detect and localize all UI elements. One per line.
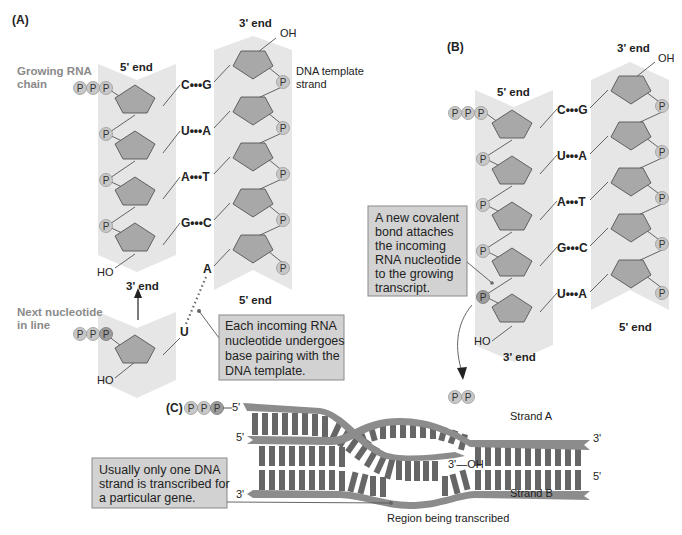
svg-text:P: P xyxy=(103,329,110,340)
base-pair: U•••A xyxy=(181,124,211,138)
callout-c-line: strand is transcribed for xyxy=(99,477,230,491)
dna-5-end-label: 5' end xyxy=(239,294,272,306)
svg-text:P: P xyxy=(103,83,110,94)
region-label: Region being transcribed xyxy=(387,512,509,524)
svg-text:P: P xyxy=(280,169,287,180)
base-pair: G•••C xyxy=(181,216,212,230)
release-arrowhead-icon xyxy=(457,367,467,380)
strand-a-3-label: 3' xyxy=(593,432,601,444)
svg-text:P: P xyxy=(452,392,459,403)
incoming-base: U xyxy=(180,325,189,339)
dna-phosphate: P xyxy=(656,100,669,113)
svg-text:P: P xyxy=(214,403,221,414)
svg-text:P: P xyxy=(480,292,487,303)
incoming-triphosphate: P P P xyxy=(74,328,113,341)
svg-text:P: P xyxy=(280,77,287,88)
svg-text:P: P xyxy=(480,154,487,165)
new-bond-phosphate: P xyxy=(477,291,490,304)
rna-triphosphate-c: P P P xyxy=(185,402,224,415)
triphosphate-b: P P P xyxy=(449,107,488,120)
dna-phosphate: P xyxy=(656,192,669,205)
svg-text:P: P xyxy=(659,239,666,250)
incoming-ho-label: HO xyxy=(97,374,114,386)
dna-phosphate: P xyxy=(277,122,290,135)
svg-text:P: P xyxy=(103,221,110,232)
svg-text:P: P xyxy=(465,392,472,403)
pyrophosphate: P P xyxy=(449,391,475,404)
callout-b-line: RNA nucleotide xyxy=(375,253,461,267)
next-nucleotide-label-2: in line xyxy=(17,319,50,331)
panel-a-label: (A) xyxy=(12,13,29,27)
callout-c-line: a particular gene. xyxy=(99,491,196,505)
rna-phosphate: P xyxy=(477,245,490,258)
svg-text:P: P xyxy=(452,108,459,119)
oh-label-b: OH xyxy=(658,52,675,64)
dna-phosphate: P xyxy=(277,262,290,275)
base-pair: G•••C xyxy=(557,241,588,255)
callout-leader-line xyxy=(199,311,219,338)
rna-phosphate: P xyxy=(100,174,113,187)
rna-ho-label: HO xyxy=(97,266,114,278)
transcription-diagram: (A) 5' end 3' end OH DNA template strand… xyxy=(0,0,682,535)
triphosphate: P P P xyxy=(74,82,113,95)
release-arrow-icon xyxy=(458,305,472,372)
dna-phosphate: P xyxy=(656,287,669,300)
svg-text:P: P xyxy=(280,123,287,134)
rna-phosphate: P xyxy=(100,128,113,141)
rna-ho-label-b: HO xyxy=(474,335,491,347)
callout-c-leader xyxy=(227,502,391,503)
strand-b-label: Strand B xyxy=(510,487,553,499)
callout-a-line: Each incoming RNA xyxy=(225,319,338,333)
dna-template-label-1: DNA template xyxy=(296,65,364,77)
rna-phosphate: P xyxy=(477,153,490,166)
svg-text:P: P xyxy=(201,403,208,414)
svg-text:P: P xyxy=(77,329,84,340)
rna-3-oh-label: 3'—OH xyxy=(448,458,484,470)
svg-text:P: P xyxy=(659,193,666,204)
growing-rna-label-1: Growing RNA xyxy=(17,65,92,77)
oh-label: OH xyxy=(280,27,297,39)
callout-b-line: bond attaches xyxy=(375,225,454,239)
svg-text:P: P xyxy=(659,101,666,112)
base-pair: A•••T xyxy=(181,170,210,184)
svg-text:P: P xyxy=(188,403,195,414)
panel-c-label: (C) xyxy=(166,401,183,415)
svg-text:P: P xyxy=(465,108,472,119)
dna-phosphate: P xyxy=(277,168,290,181)
svg-text:P: P xyxy=(90,83,97,94)
dna-phosphate: P xyxy=(277,214,290,227)
svg-text:P: P xyxy=(103,175,110,186)
rna-3-end-label-b: 3' end xyxy=(503,351,536,363)
svg-text:P: P xyxy=(478,108,485,119)
dna-3-end-label: 3' end xyxy=(239,17,272,29)
rna-3-end-label: 3' end xyxy=(126,280,159,292)
panel-b-label: (B) xyxy=(447,40,464,54)
growing-rna-label-2: chain xyxy=(17,78,47,90)
dna-template-label-2: strand xyxy=(296,78,327,90)
dna-5-end-label-b: 5' end xyxy=(619,321,652,333)
svg-text:P: P xyxy=(280,263,287,274)
dna-phosphate: P xyxy=(277,76,290,89)
callout-b-line: A new covalent xyxy=(375,211,460,225)
base-pair: A•••T xyxy=(557,195,586,209)
svg-text:P: P xyxy=(480,200,487,211)
callout-b-line: transcript. xyxy=(375,281,430,295)
callout-b-line: to the growing xyxy=(375,267,454,281)
strand-a-5-label: 5' xyxy=(236,431,244,443)
strand-a-label: Strand A xyxy=(510,410,553,422)
svg-text:P: P xyxy=(659,288,666,299)
callout-b-line: the incoming xyxy=(375,239,446,253)
dna-3-end-label-b: 3' end xyxy=(617,42,650,54)
svg-text:P: P xyxy=(90,329,97,340)
next-nucleotide-label-1: Next nucleotide xyxy=(17,306,103,318)
unpaired-dna-base: A xyxy=(203,262,212,276)
base-pair: U•••A xyxy=(557,149,587,163)
strand-b-5-label: 5' xyxy=(593,470,601,482)
rna-phosphate: P xyxy=(100,220,113,233)
panel-b: (B) 5' end 3' end OH P P P P P P P HO 3'… xyxy=(368,40,675,404)
callout-c-dot xyxy=(389,501,393,505)
strand-a xyxy=(247,418,590,450)
callout-a-line: nucleotide undergoes xyxy=(225,334,345,348)
callout-b-dot xyxy=(490,281,494,285)
svg-text:P: P xyxy=(103,129,110,140)
